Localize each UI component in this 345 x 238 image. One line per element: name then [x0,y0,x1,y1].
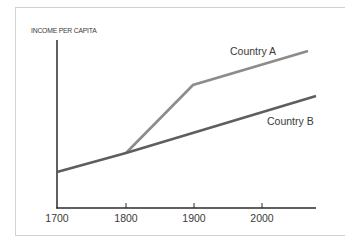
x-tick-label: 1700 [45,212,69,224]
series-line-country-b [57,96,316,172]
series-label-country-a: Country A [230,45,276,57]
x-tick-label: 2000 [250,212,274,224]
x-tick-label: 1800 [114,212,138,224]
x-tick-label: 1900 [182,212,206,224]
series-line-country-a [126,51,308,153]
y-axis-label: INCOME PER CAPITA [31,27,97,34]
series-label-country-b: Country B [267,115,314,127]
